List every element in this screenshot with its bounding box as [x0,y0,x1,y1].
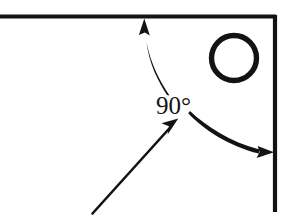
curved-arrow-up-head [139,19,150,36]
curved-arrow-right [188,111,274,158]
pointer-arrow [93,119,179,214]
diagram-canvas: 90° [0,0,293,222]
pointer-arrow-head [161,119,178,135]
circle-outline [212,36,257,81]
curved-arrow-up-shaft [147,42,170,96]
right-angle-diagram: 90° [0,0,293,222]
angle-label: 90° [156,92,191,119]
curved-arrow-right-shaft [188,111,259,154]
curved-arrow-up [139,19,170,96]
pointer-arrow-shaft [93,126,172,214]
